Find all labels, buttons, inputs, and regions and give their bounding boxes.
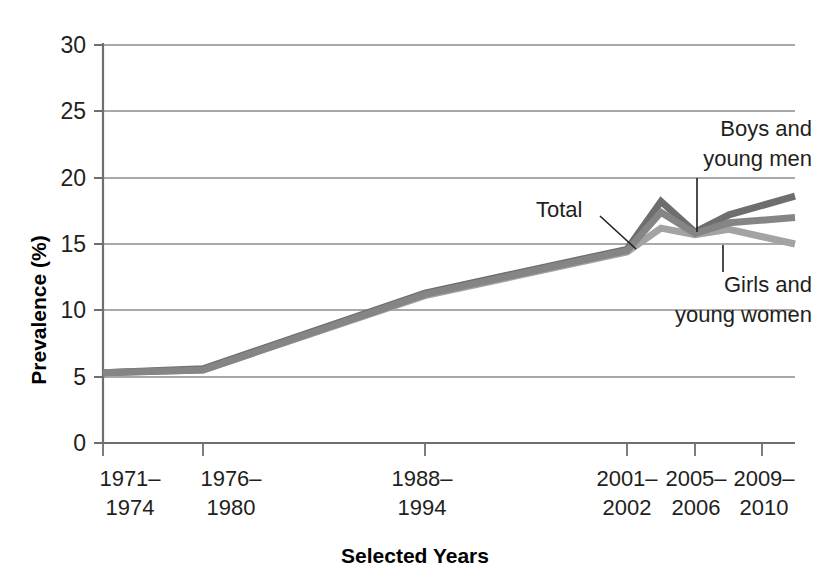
x-tick-label-1-line2: 1980 bbox=[207, 495, 256, 520]
y-tick-label-30: 30 bbox=[60, 32, 86, 58]
x-tick-label-0-line2: 1974 bbox=[106, 495, 155, 520]
y-tick-label-0: 0 bbox=[73, 430, 86, 456]
x-tick-labels: 1971– 1974 1976– 1980 1988– 1994 2001– 2… bbox=[99, 466, 795, 520]
y-tick-label-15: 15 bbox=[60, 231, 86, 257]
y-tick-marks bbox=[94, 45, 103, 443]
x-tick-label-5-line2: 2010 bbox=[740, 495, 789, 520]
x-tick-label-0-line1: 1971– bbox=[99, 466, 161, 491]
series-label-boys-line1: Boys and bbox=[720, 116, 812, 141]
series-label-total: Total bbox=[536, 197, 582, 222]
series-label-girls-line2: young women bbox=[675, 302, 812, 327]
x-tick-label-1-line1: 1976– bbox=[200, 466, 262, 491]
y-tick-label-25: 25 bbox=[60, 98, 86, 124]
x-tick-marks bbox=[103, 443, 762, 456]
y-tick-label-5: 5 bbox=[73, 364, 86, 390]
series-label-boys-line2: young men bbox=[703, 146, 812, 171]
x-tick-label-4-line1: 2005– bbox=[665, 466, 727, 491]
x-tick-label-5-line1: 2009– bbox=[733, 466, 795, 491]
chart-container: 30 25 20 15 10 5 0 Prevalence (%) 1971– … bbox=[0, 0, 832, 585]
x-tick-label-3-line2: 2002 bbox=[603, 495, 652, 520]
series-label-girls-line1: Girls and bbox=[724, 272, 812, 297]
x-tick-label-4-line2: 2006 bbox=[672, 495, 721, 520]
line-chart: 30 25 20 15 10 5 0 Prevalence (%) 1971– … bbox=[0, 0, 832, 585]
y-axis-title: Prevalence (%) bbox=[27, 235, 50, 384]
series-lines bbox=[103, 196, 795, 373]
y-tick-label-20: 20 bbox=[60, 165, 86, 191]
series-line-girls bbox=[103, 228, 795, 373]
x-tick-label-3-line1: 2001– bbox=[596, 466, 658, 491]
y-tick-label-10: 10 bbox=[60, 297, 86, 323]
gridlines bbox=[103, 45, 795, 377]
series-line-boys bbox=[103, 196, 795, 373]
x-tick-label-2-line1: 1988– bbox=[391, 466, 453, 491]
x-axis-title: Selected Years bbox=[341, 544, 489, 567]
x-tick-label-2-line2: 1994 bbox=[398, 495, 447, 520]
y-tick-labels: 30 25 20 15 10 5 0 bbox=[60, 32, 86, 456]
